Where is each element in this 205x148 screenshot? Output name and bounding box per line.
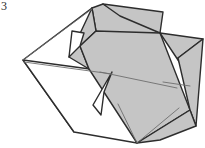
faces-layer — [23, 4, 203, 143]
origami-diagram-svg — [0, 0, 205, 148]
origami-figure: 3 — [0, 0, 205, 148]
